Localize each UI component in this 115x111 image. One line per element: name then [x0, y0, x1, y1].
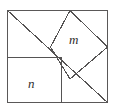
diamond-m-outline	[51, 11, 108, 80]
square-n-outline	[8, 58, 62, 103]
geometry-figure: m n	[0, 0, 115, 111]
main-diagonal	[8, 11, 108, 103]
figure-canvas	[0, 0, 115, 111]
label-n: n	[28, 77, 35, 90]
label-m: m	[69, 33, 78, 46]
